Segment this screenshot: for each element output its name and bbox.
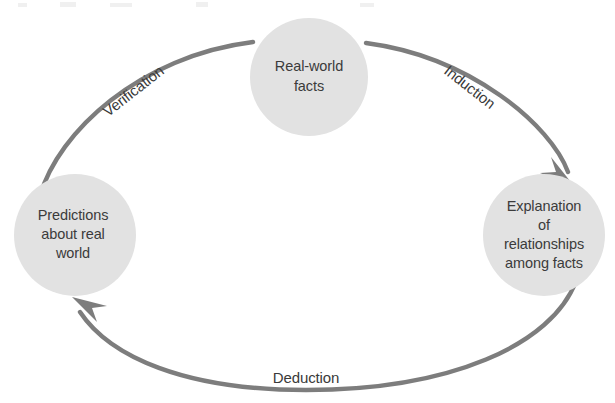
predictions-node: Predictions about real world bbox=[14, 174, 136, 296]
real-world-facts-label-line-2: facts bbox=[294, 78, 324, 94]
real-world-facts-label-line-1: Real-world bbox=[275, 58, 343, 74]
explanation-label-line-3: relationships bbox=[504, 236, 584, 252]
explanation-label-line-2: of bbox=[538, 217, 551, 233]
real-world-facts-node: Real-world facts bbox=[250, 18, 368, 136]
verification-arc bbox=[40, 42, 253, 196]
paper-artifacts bbox=[18, 2, 374, 7]
predictions-label-line-2: about real bbox=[41, 226, 105, 242]
predictions-label-line-1: Predictions bbox=[38, 207, 109, 223]
explanation-node: Explanation of relationships among facts bbox=[483, 174, 605, 296]
deduction-label-group: Deduction bbox=[273, 369, 340, 386]
explanation-label-line-1: Explanation bbox=[507, 198, 582, 214]
cycle-svg: Real-world facts Explanation of relation… bbox=[0, 0, 615, 403]
predictions-label-line-3: world bbox=[55, 245, 90, 261]
verification-label-group: Verification bbox=[99, 62, 166, 120]
explanation-label-line-4: among facts bbox=[505, 255, 583, 271]
verification-label: Verification bbox=[99, 62, 166, 120]
science-cycle-diagram: Real-world facts Explanation of relation… bbox=[0, 0, 615, 403]
deduction-label: Deduction bbox=[273, 369, 340, 386]
induction-arc bbox=[366, 43, 568, 172]
deduction-arrowhead bbox=[72, 297, 107, 322]
